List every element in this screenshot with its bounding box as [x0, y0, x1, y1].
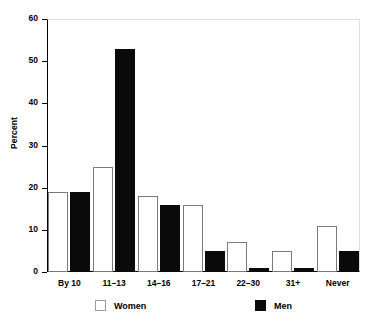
bar-women — [138, 196, 158, 272]
bar-men — [160, 205, 180, 272]
y-axis-tick-label: 60 — [29, 13, 38, 23]
bar-women — [227, 242, 247, 272]
x-axis-label: 31+ — [271, 278, 316, 288]
y-axis-tick-label: 40 — [29, 97, 38, 107]
y-axis-tick-label: 10 — [29, 224, 38, 234]
legend-swatch-men-icon — [255, 300, 266, 311]
x-axis-label: 22–30 — [226, 278, 271, 288]
x-axis-label: 14–16 — [136, 278, 181, 288]
chart-legend: WomenMen — [47, 300, 360, 318]
bar-chart: Percent 0102030405060 By 1011–1314–1617–… — [0, 0, 374, 321]
bar-men — [339, 251, 359, 272]
bar-men — [205, 251, 225, 272]
bar-women — [272, 251, 292, 272]
legend-label: Women — [114, 301, 146, 311]
bar-women — [93, 167, 113, 272]
bar-men — [249, 268, 269, 272]
x-axis-labels: By 1011–1314–1617–2122–3031+Never — [47, 278, 360, 294]
y-axis-tick-label: 50 — [29, 55, 38, 65]
bars-layer — [47, 19, 360, 272]
x-axis-label: By 10 — [47, 278, 92, 288]
bar-women — [183, 205, 203, 272]
legend-label: Men — [274, 301, 292, 311]
y-axis-tick-label: 30 — [29, 140, 38, 150]
legend-swatch-women-icon — [95, 300, 106, 311]
bar-women — [48, 192, 68, 272]
y-axis-tick-mark — [42, 272, 47, 273]
bar-men — [294, 268, 314, 272]
y-axis-tick-label: 0 — [33, 266, 38, 276]
bar-men — [70, 192, 90, 272]
y-axis-title: Percent — [9, 103, 19, 163]
y-axis-tick-label: 20 — [29, 182, 38, 192]
bar-women — [317, 226, 337, 272]
legend-item-men[interactable]: Men — [255, 300, 292, 311]
legend-item-women[interactable]: Women — [95, 300, 146, 311]
x-axis-label: 17–21 — [181, 278, 226, 288]
x-axis-label: 11–13 — [92, 278, 137, 288]
bar-men — [115, 49, 135, 272]
x-axis-label: Never — [315, 278, 360, 288]
